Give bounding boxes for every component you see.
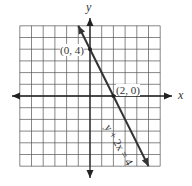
plotted-point <box>88 47 92 51</box>
point-label-a: (0, 4) <box>60 44 84 56</box>
y-arrow-up-icon <box>87 18 94 26</box>
y-arrow-down-icon <box>87 170 94 178</box>
x-axis-label: x <box>178 88 183 103</box>
x-arrow-left-icon <box>12 93 20 100</box>
x-arrow-right-icon <box>164 93 172 100</box>
axis-arrows <box>12 18 172 178</box>
y-axis-label: y <box>86 0 91 15</box>
coordinate-plane <box>0 0 192 186</box>
axes <box>12 18 172 178</box>
plotted-point <box>111 94 115 98</box>
point-label-b: (2, 0) <box>116 84 140 96</box>
